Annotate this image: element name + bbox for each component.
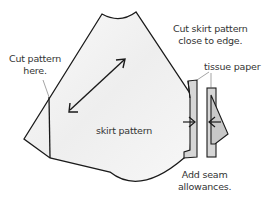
- cut-skirt-label-line1: Cut skirt pattern: [173, 23, 248, 35]
- cut-pattern-leader: [43, 80, 49, 97]
- skirt-pattern-label: skirt pattern: [96, 125, 152, 137]
- seam-label-line1: Add seam: [178, 169, 231, 181]
- tissue-paper-label: tissue paper: [204, 61, 260, 73]
- cut-pattern-label-line1: Cut pattern: [9, 53, 61, 65]
- seam-allowance-label: Add seam allowances.: [178, 169, 231, 193]
- cut-skirt-label-line2: close to edge.: [173, 35, 248, 47]
- cut-pattern-label-line2: here.: [9, 65, 61, 77]
- cut-skirt-label: Cut skirt pattern close to edge.: [173, 23, 248, 47]
- seam-label-line2: allowances.: [178, 181, 231, 193]
- skirt-pattern-diagram: Cut pattern here. Cut skirt pattern clos…: [0, 0, 272, 199]
- tissue-leader-1: [197, 72, 209, 80]
- cut-pattern-label: Cut pattern here.: [9, 53, 61, 77]
